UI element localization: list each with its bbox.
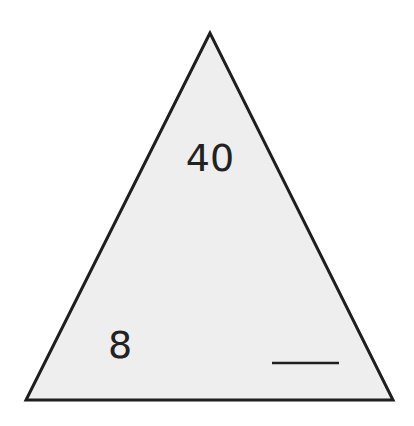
bottom-left-number: 8 bbox=[108, 323, 132, 367]
triangle-shape bbox=[26, 33, 393, 400]
fact-triangle-diagram: 40 8 bbox=[0, 0, 414, 426]
top-number: 40 bbox=[186, 136, 234, 180]
